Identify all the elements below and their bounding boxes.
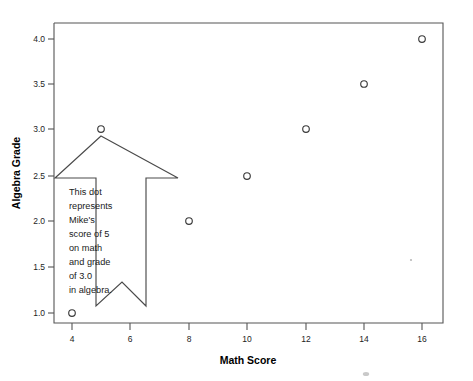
scatter-chart-figure: 4.0 3.5 3.0 2.5 2.0 1.5 1.0 4 6 8 10 12 … [0,0,473,381]
annotation-line: on math [69,243,102,253]
annotation-line: of 3.0 [69,271,92,281]
y-tick-label: 1.0 [33,308,45,318]
annotation-line: score of 5 [69,229,109,239]
scan-artifact-smudge [363,372,369,376]
x-tick-label: 16 [417,334,427,344]
data-point [186,218,193,225]
y-tick-label: 1.5 [33,262,45,272]
y-tick-label: 2.5 [33,171,45,181]
x-tick-label: 4 [70,334,75,344]
chart-canvas: 4.0 3.5 3.0 2.5 2.0 1.5 1.0 4 6 8 10 12 … [0,0,473,381]
annotation-line: in algebra. [69,285,112,295]
scan-artifact-speck [410,259,412,261]
annotation-line: This dot [69,187,102,197]
y-tick-label: 3.5 [33,79,45,89]
y-tick-label: 2.0 [33,216,45,226]
y-axis-title: Algebra Grade [10,137,22,210]
x-tick-label: 6 [128,334,133,344]
data-point [303,126,310,133]
data-point [98,126,105,133]
annotation-line: and grade [69,257,110,267]
x-axis-title: Math Score [220,354,277,366]
y-tick-label: 3.0 [33,124,45,134]
annotation-line: Mike's [69,215,95,225]
data-point [244,173,251,180]
data-point [361,81,368,88]
x-tick-label: 12 [301,334,311,344]
x-tick-label: 8 [187,334,192,344]
data-point [419,36,426,43]
data-point [69,310,76,317]
y-tick-label: 4.0 [33,34,45,44]
x-tick-label: 14 [359,334,369,344]
annotation-line: represents [69,201,113,211]
x-tick-label: 10 [242,334,252,344]
